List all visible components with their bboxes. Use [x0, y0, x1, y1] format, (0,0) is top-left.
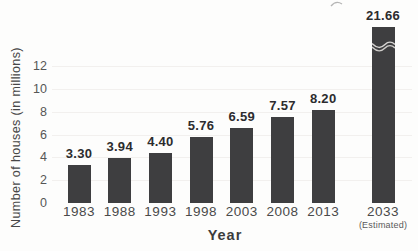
y-tick-6: 6: [25, 128, 47, 142]
axis-break-squiggle: [372, 39, 395, 53]
bar-2003: [230, 128, 253, 203]
x-axis-label: Year: [185, 227, 265, 243]
bar-2033: [372, 27, 395, 203]
bar-1998: [190, 137, 213, 203]
value-label-2033: 21.66: [355, 8, 411, 23]
bar-1993: [149, 153, 172, 203]
value-label-1993: 4.40: [132, 134, 188, 149]
x-tick-2033: 2033(Estimated): [353, 204, 413, 230]
bar-1988: [108, 158, 131, 203]
y-tick-12: 12: [25, 59, 47, 73]
y-tick-0: 0: [25, 196, 47, 210]
x-tick-2013: 2013: [293, 204, 353, 219]
y-tick-2: 2: [25, 173, 47, 187]
bar-1983: [68, 165, 91, 203]
y-tick-8: 8: [25, 105, 47, 119]
value-label-2013: 8.20: [295, 91, 351, 106]
gridline-10: [52, 89, 412, 90]
gridline-12: [52, 66, 412, 67]
bar-2013: [312, 110, 335, 203]
y-axis-label: Number of houses (in millions): [9, 38, 26, 238]
y-tick-4: 4: [25, 150, 47, 164]
bar-chart: Number of houses (in millions) 024681012…: [0, 0, 418, 251]
bar-2008: [271, 117, 294, 203]
x-tick-sublabel-2033: (Estimated): [353, 220, 413, 230]
scan-artifact-mark: [330, 0, 344, 7]
y-tick-10: 10: [25, 82, 47, 96]
